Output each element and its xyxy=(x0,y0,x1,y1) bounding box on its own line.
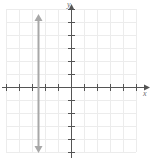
y-axis xyxy=(69,4,75,158)
x-axis xyxy=(2,85,150,91)
plotted-line-arrowhead-up xyxy=(35,14,43,21)
coordinate-plane-figure: y x xyxy=(0,0,153,162)
x-axis-label: x xyxy=(143,90,147,98)
plotted-vertical-line xyxy=(35,14,43,153)
y-axis-label: y xyxy=(67,1,71,9)
plotted-line-arrowhead-down xyxy=(35,146,43,153)
coordinate-plane-svg xyxy=(0,0,153,162)
